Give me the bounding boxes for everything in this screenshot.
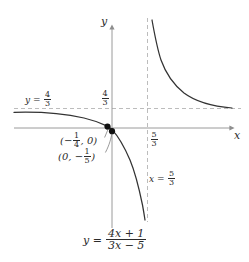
y-axis-label: y [101,16,107,27]
yi-prefix: 0, − [62,151,83,162]
eq-fraction: 4x + 1 3x − 5 [106,228,146,251]
x-axis-tick-label-five-thirds: 5 3 [150,131,158,148]
function-equation-label: y = 4x + 1 3x − 5 [83,228,147,251]
leader-line-y-intercept [105,134,111,153]
va-equals: = [157,174,165,184]
xi-close-paren: ) [93,135,97,146]
point-y-intercept [109,128,115,134]
ha-variable: y [25,95,30,105]
y-intercept-label: (0, − 1 5 ) [58,148,95,165]
curve-right-branch [152,20,232,108]
vertical-asymptote-label: x = 5 3 [149,170,176,187]
graph-canvas [0,0,249,262]
leader-line-x-intercept [105,129,108,137]
point-x-intercept [104,124,110,130]
fraction-four-thirds: 4 3 [102,90,109,107]
ha-equals: = [33,95,41,105]
y-axis-tick-label-four-thirds: 4 3 [101,90,109,107]
eq-equals: = [93,234,102,247]
rational-function-figure: y x 4 3 5 3 y = 4 3 x = 5 3 (− 1 [0,0,249,262]
x-intercept-label: (− 1 4 , 0) [60,132,97,149]
xi-sign: − [64,135,72,146]
yi-close-paren: ) [91,151,95,162]
eq-denominator: 3x − 5 [106,240,146,251]
xi-fraction: 1 4 [73,132,80,149]
eq-lhs: y [83,234,89,247]
xi-separator: , 0 [81,135,94,146]
yi-fraction: 1 5 [84,148,91,165]
va-fraction: 5 3 [168,170,175,187]
x-axis-label: x [234,130,240,141]
fraction-five-thirds: 5 3 [151,131,158,148]
horizontal-asymptote-label: y = 4 3 [25,91,52,108]
va-variable: x [149,174,154,184]
ha-fraction: 4 3 [44,91,51,108]
